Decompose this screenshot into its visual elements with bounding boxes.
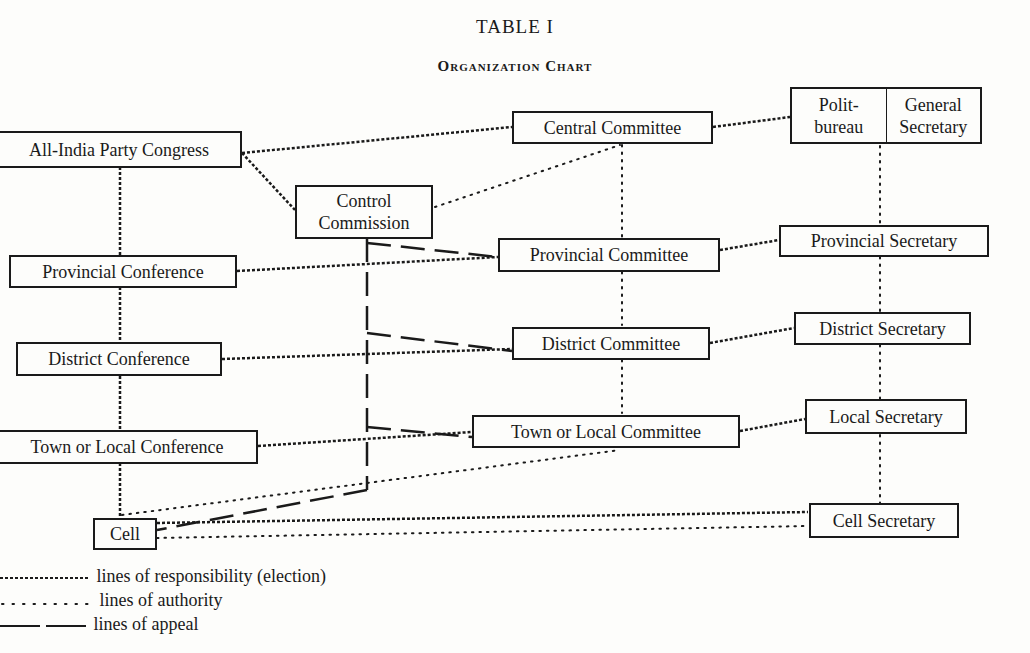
node-district-conference: District Conference xyxy=(16,342,222,376)
politbureau-line-1: Polit- xyxy=(819,94,859,116)
node-cell: Cell xyxy=(93,518,157,550)
legend-label-appeal: lines of appeal xyxy=(94,614,199,634)
legend-label-authority: lines of authority xyxy=(100,590,223,610)
node-town-local-conference: Town or Local Conference xyxy=(0,430,258,464)
node-town-local-committee: Town or Local Committee xyxy=(472,415,740,448)
legend-label-responsibility: lines of responsibility (election) xyxy=(97,566,326,586)
node-provincial-conference: Provincial Conference xyxy=(9,255,237,288)
control-commission-line-2: Commission xyxy=(318,212,409,234)
node-politbureau-general-secretary: Polit- bureau General Secretary xyxy=(790,87,982,144)
authority-lines xyxy=(122,145,880,538)
legend-item-authority: lines of authority xyxy=(0,590,222,611)
dashed-line-sample-icon xyxy=(0,573,92,583)
legend-item-appeal: lines of appeal xyxy=(0,614,198,635)
node-central-committee: Central Committee xyxy=(512,111,713,144)
node-provincial-committee: Provincial Committee xyxy=(498,238,720,272)
legend-item-responsibility: lines of responsibility (election) xyxy=(0,566,326,587)
node-control-commission: Control Commission xyxy=(295,185,433,239)
dotted-line-sample-icon xyxy=(0,597,95,607)
node-general-secretary: General Secretary xyxy=(887,89,981,142)
control-commission-line-1: Control xyxy=(336,190,391,212)
general-secretary-line-2: Secretary xyxy=(899,116,967,138)
node-cell-secretary: Cell Secretary xyxy=(809,503,959,538)
node-politbureau: Polit- bureau xyxy=(792,89,887,142)
node-district-secretary: District Secretary xyxy=(794,312,971,345)
long-dash-line-sample-icon xyxy=(0,621,89,631)
node-local-secretary: Local Secretary xyxy=(805,399,967,434)
general-secretary-line-1: General xyxy=(905,94,962,116)
node-district-committee: District Committee xyxy=(512,327,710,360)
politbureau-line-2: bureau xyxy=(814,116,863,138)
node-all-india-party-congress: All-India Party Congress xyxy=(0,131,242,168)
node-provincial-secretary: Provincial Secretary xyxy=(779,225,989,257)
